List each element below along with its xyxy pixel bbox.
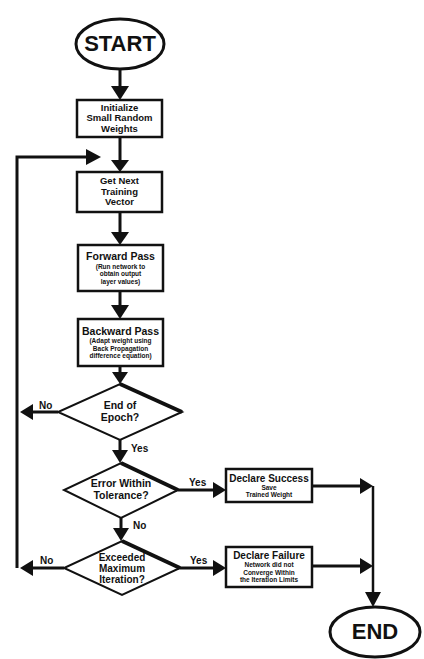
declare-success-box: Declare Success Save Trained Weight xyxy=(226,469,312,502)
forward-detail-3: layer values) xyxy=(101,278,140,285)
failure-detail-1: Network did not xyxy=(244,561,293,568)
end-label: END xyxy=(352,620,398,644)
flowchart-canvas xyxy=(0,0,424,659)
arrowhead-icon xyxy=(213,560,226,576)
exceeded-line2: Maximum xyxy=(99,563,145,574)
end-of-epoch-decision: End of Epoch? xyxy=(80,396,160,428)
failure-detail-3: the Iteration Limits xyxy=(240,576,298,583)
error-tolerance-decision: Error Within Tolerance? xyxy=(76,474,166,506)
edge-label-error-no: No xyxy=(133,520,146,531)
get-next-vector-box: Get Next Training Vector xyxy=(77,172,162,212)
arrowhead-icon xyxy=(111,305,129,319)
exceeded-iteration-decision: Exceeded Maximum Iteration? xyxy=(82,549,162,587)
edge-label-exceeded-yes: Yes xyxy=(190,555,207,566)
forward-detail-2: obtain output xyxy=(100,270,142,277)
arrowhead-icon xyxy=(112,450,128,463)
arrowhead-icon xyxy=(111,232,129,245)
arrowhead-icon xyxy=(360,558,373,574)
edge-label-epoch-no: No xyxy=(39,400,52,411)
declare-failure-box: Declare Failure Network did not Converge… xyxy=(226,547,312,587)
arrowhead-icon xyxy=(113,528,129,541)
end-terminal: END xyxy=(330,607,420,657)
forward-title: Forward Pass xyxy=(86,251,155,263)
start-label: START xyxy=(84,32,156,56)
backward-pass-box: Backward Pass (Adapt weight using Back P… xyxy=(78,319,163,366)
start-terminal: START xyxy=(76,19,164,69)
forward-detail-1: (Run network to xyxy=(96,263,145,270)
arrowhead-icon xyxy=(111,86,129,100)
init-weights-box: Initialize Small Random Weights xyxy=(77,100,162,137)
backward-detail-2: Back Propagation xyxy=(93,345,148,352)
arrowhead-icon xyxy=(213,482,226,498)
edge-label-exceeded-no: No xyxy=(40,555,53,566)
edge-label-error-yes: Yes xyxy=(189,477,206,488)
failure-detail-2: Converge Within xyxy=(243,569,295,576)
error-line2: Tolerance? xyxy=(93,490,148,502)
failure-title: Declare Failure xyxy=(233,550,305,561)
backward-title: Backward Pass xyxy=(82,326,159,338)
backward-detail-1: (Adapt weight using xyxy=(89,337,151,344)
forward-pass-box: Forward Pass (Run network to obtain outp… xyxy=(78,245,163,291)
arrowhead-icon xyxy=(365,592,381,607)
arrowhead-icon xyxy=(360,478,373,494)
init-line3: Weights xyxy=(101,124,138,134)
getnext-line3: Vector xyxy=(105,197,134,207)
epoch-line2: Epoch? xyxy=(101,412,140,424)
edge-label-epoch-yes: Yes xyxy=(131,443,148,454)
arrowhead-icon xyxy=(111,160,129,172)
arrowhead-icon xyxy=(20,560,33,576)
arrowhead-icon xyxy=(112,372,128,384)
exceeded-line1: Exceeded xyxy=(99,552,146,563)
success-detail-1: Save xyxy=(261,484,276,491)
exceeded-line3: Iteration? xyxy=(99,574,145,585)
arrowhead-icon xyxy=(20,404,33,420)
success-title: Declare Success xyxy=(229,473,309,484)
backward-detail-3: difference equation) xyxy=(89,352,151,359)
arrowhead-icon xyxy=(86,149,101,165)
success-detail-2: Trained Weight xyxy=(246,491,292,498)
